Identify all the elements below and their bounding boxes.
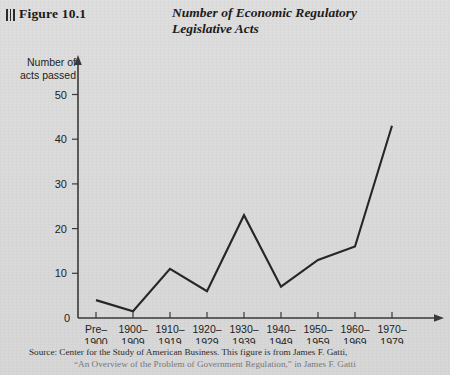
x-tick-label: Pre– [85,323,107,335]
line-chart-svg: 01020304050 Pre–19001900–19091910–191919… [0,48,450,344]
figure-header: Figure 10.1 Number of Economic Regulator… [0,0,450,48]
y-tick-label: 20 [55,223,67,235]
x-tick-label: 1949 [269,336,293,344]
y-axis-ticks: 01020304050 [55,89,78,325]
y-tick-label: 10 [55,267,67,279]
x-tick-label: 1909 [121,336,145,344]
y-tick-label: 0 [64,312,70,324]
chart-title: Number of Economic Regulatory Legislativ… [172,5,437,36]
y-tick-label: 40 [55,133,67,145]
x-tick-label: 1900 [84,336,108,344]
x-tick-label: 1910– [155,323,184,335]
x-tick-label: 1940– [266,323,295,335]
x-axis-ticks [96,312,392,318]
x-tick-label: 1919 [158,336,182,344]
y-axis-title-line-2: acts passed [14,69,76,82]
figure-label: Figure 10.1 [19,6,86,22]
data-series-line [96,126,392,312]
source-note-line-2: “An Overview of the Problem of Governmen… [0,359,450,371]
x-tick-label: 1979 [380,336,404,344]
x-tick-label: 1900– [118,323,147,335]
source-note: Source: Center for the Study of American… [0,347,450,370]
figure-rule-marks [6,8,15,21]
chart-title-line-1: Number of Economic Regulatory [172,5,437,21]
x-tick-label: 1950– [303,323,332,335]
chart-plot-area: Number of acts passed 01020304050 Pre–19… [0,48,450,344]
x-tick-label: 1960– [340,323,369,335]
y-axis-title: Number of acts passed [14,56,76,81]
y-axis-title-line-1: Number of [14,56,76,69]
x-tick-label: 1939 [232,336,256,344]
y-tick-label: 50 [55,89,67,101]
x-tick-label: 1929 [195,336,219,344]
x-tick-label: 1970– [377,323,406,335]
x-axis-labels: Pre–19001900–19091910–19191920–19291930–… [84,323,406,344]
x-tick-label: 1920– [192,323,221,335]
x-tick-label: 1959 [306,336,330,344]
figure-page: Figure 10.1 Number of Economic Regulator… [0,0,450,375]
source-note-line-1: Source: Center for the Study of American… [0,347,450,359]
x-tick-label: 1969 [343,336,367,344]
x-tick-label: 1930– [229,323,258,335]
axis-lines [74,55,444,322]
y-tick-label: 30 [55,178,67,190]
chart-title-line-2: Legislative Acts [172,21,437,37]
